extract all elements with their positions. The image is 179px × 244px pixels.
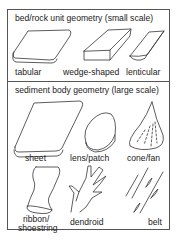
- wedge-block-icon: [84, 29, 131, 60]
- label-tabular: tabular: [15, 68, 41, 77]
- belt-icon: [126, 168, 163, 213]
- cone-fan-icon: [129, 102, 163, 150]
- label-shoestring: shoestring: [18, 224, 58, 233]
- lens-patch-icon: [85, 113, 116, 152]
- label-cone-fan: cone/fan: [127, 154, 160, 163]
- lenticular-body-icon: [130, 31, 164, 60]
- label-lenticular: lenticular: [126, 68, 160, 77]
- label-sheet: sheet: [25, 154, 46, 163]
- label-dendroid: dendroid: [70, 218, 103, 227]
- dendroid-icon: [69, 166, 106, 212]
- label-belt: belt: [148, 218, 162, 227]
- geometry-illustrations: [0, 0, 179, 244]
- label-wedge-shaped: wedge-shaped: [63, 68, 119, 77]
- ribbon-shoestring-icon: [27, 167, 60, 214]
- tabular-slab-icon: [13, 30, 71, 63]
- sheet-slab-icon: [14, 101, 83, 157]
- label-lens-patch: lens/patch: [70, 154, 109, 163]
